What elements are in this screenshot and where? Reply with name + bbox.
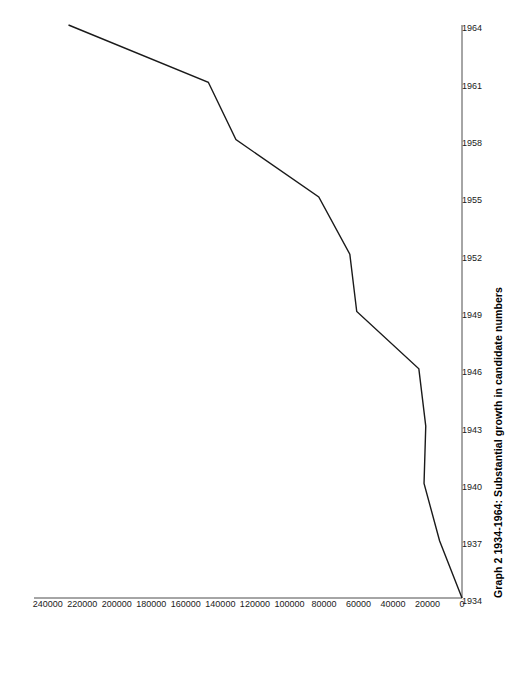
x-tick-label: 1943 xyxy=(462,425,482,435)
y-tick-label: 140000 xyxy=(205,599,235,609)
chart-canvas: 1934193719401943194619491952195519581961… xyxy=(0,0,526,676)
y-tick-label: 80000 xyxy=(311,599,336,609)
x-tick-label: 1961 xyxy=(462,81,482,91)
y-tick-label: 40000 xyxy=(380,599,405,609)
y-tick-label: 120000 xyxy=(240,599,270,609)
x-tick-label: 1934 xyxy=(462,596,482,606)
y-tick-label: 0 xyxy=(459,599,464,609)
x-tick-label: 1958 xyxy=(462,138,482,148)
y-tick-label: 60000 xyxy=(346,599,371,609)
x-tick-label: 1949 xyxy=(462,310,482,320)
chart-title: Graph 2 1934-1964: Substantial growth in… xyxy=(492,287,504,598)
y-tick-label: 160000 xyxy=(171,599,201,609)
y-tick-label: 220000 xyxy=(67,599,97,609)
y-tick-label: 20000 xyxy=(415,599,440,609)
x-tick-label: 1946 xyxy=(462,367,482,377)
x-tick-label: 1952 xyxy=(462,253,482,263)
chart-plot-area: 1934193719401943194619491952195519581961… xyxy=(0,0,526,676)
y-tick-label: 100000 xyxy=(274,599,304,609)
x-tick-labels: 1934193719401943194619491952195519581961… xyxy=(462,23,482,606)
y-tick-label: 180000 xyxy=(136,599,166,609)
x-tick-label: 1940 xyxy=(462,482,482,492)
y-tick-label: 240000 xyxy=(33,599,63,609)
rotated-figure: 1934193719401943194619491952195519581961… xyxy=(0,0,526,676)
x-tick-label: 1955 xyxy=(462,195,482,205)
x-tick-label: 1964 xyxy=(462,23,482,33)
data-series-line xyxy=(69,25,462,598)
x-tick-label: 1937 xyxy=(462,539,482,549)
y-tick-labels: 0200004000060000800001000001200001400001… xyxy=(33,599,465,609)
y-tick-label: 200000 xyxy=(102,599,132,609)
